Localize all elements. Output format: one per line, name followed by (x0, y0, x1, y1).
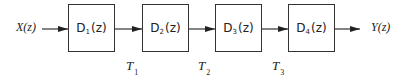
block-d2: D2(z) (142, 4, 189, 52)
block-d4-main: D (296, 21, 305, 35)
block-d2-arg: (z) (165, 21, 181, 35)
tap-t3-sub: 3 (280, 68, 284, 77)
tap-label-t1: T1 (126, 58, 137, 74)
block-d3-sub: 3 (233, 28, 237, 36)
block-d4-arg: (z) (311, 21, 327, 35)
tap-t2-sub: 2 (206, 68, 210, 77)
block-d1: D1(z) (68, 4, 115, 52)
block-diagram: X(z) D1(z) D2(z) D3(z) D4(z) Y(z) T1 T2 … (0, 0, 405, 81)
tap-t3-main: T (272, 58, 279, 73)
block-d2-sub: 2 (160, 28, 164, 36)
tap-t1-sub: 1 (134, 68, 138, 77)
block-d2-main: D (150, 21, 159, 35)
block-d1-arg: (z) (91, 21, 107, 35)
block-d3: D3(z) (215, 4, 262, 52)
tap-label-t2: T2 (198, 58, 209, 74)
block-d1-sub: 1 (86, 28, 90, 36)
block-d1-main: D (76, 21, 85, 35)
tap-t1-main: T (126, 58, 133, 73)
input-label: X(z) (16, 20, 36, 35)
block-d3-main: D (223, 21, 232, 35)
block-d3-arg: (z) (238, 21, 254, 35)
tap-t2-main: T (198, 58, 205, 73)
tap-label-t3: T3 (272, 58, 283, 74)
block-d4: D4(z) (288, 4, 335, 52)
output-label: Y(z) (371, 20, 390, 35)
block-d4-sub: 4 (306, 28, 310, 36)
